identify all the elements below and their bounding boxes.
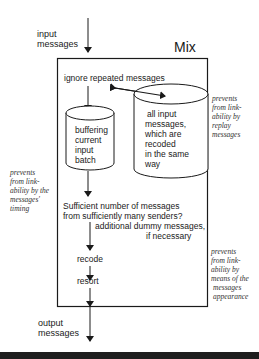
recode-step: recode bbox=[77, 254, 103, 264]
mix-title: Mix bbox=[174, 39, 196, 55]
bottom-band bbox=[0, 352, 259, 359]
annotation-replay: prevents from link- ability by replay me… bbox=[211, 94, 243, 139]
store-database: all input messages, which are recoded in… bbox=[134, 84, 208, 178]
dummy-step: additional dummy messages, if necessary bbox=[95, 221, 207, 241]
resort-step: resort bbox=[77, 276, 99, 286]
buffer-database: buffering current input batch bbox=[66, 106, 114, 170]
output-label: output messages bbox=[38, 318, 80, 338]
input-label: input messages bbox=[37, 29, 79, 49]
ignore-step: ignore repeated messages bbox=[64, 73, 165, 83]
sufficient-step: Sufficient number of messages from suffi… bbox=[63, 201, 183, 221]
mix-diagram: input messages Mix ignore repeated messa… bbox=[0, 0, 259, 359]
annotation-appearance: prevents from link- ability by means of … bbox=[210, 247, 251, 301]
annotation-timing: prevents from link- ability by the messa… bbox=[9, 168, 51, 213]
